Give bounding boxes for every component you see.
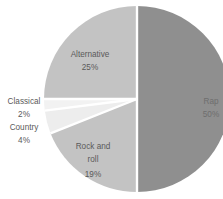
slice-label-rock-and-roll-name-1: Rock and <box>76 142 111 151</box>
slice-label-rap-value: 50% <box>203 110 219 119</box>
slice-label-rock-and-roll-name-2: roll <box>88 155 99 164</box>
pie-chart: Alternative 25% Rap 50% Rock and roll 19… <box>0 0 223 199</box>
slice-label-rap-name: Rap <box>203 97 218 106</box>
slice-label-country-value: 4% <box>18 136 30 145</box>
pie-chart-svg: Alternative 25% Rap 50% Rock and roll 19… <box>0 0 223 199</box>
slice-label-classical-value: 2% <box>18 110 30 119</box>
slice-label-rock-and-roll-value: 19% <box>85 170 101 179</box>
slice-label-alternative-name: Alternative <box>71 50 110 59</box>
slice-label-country-name: Country <box>10 123 40 132</box>
slice-label-alternative-value: 25% <box>82 63 98 72</box>
slice-label-classical-name: Classical <box>8 97 41 106</box>
